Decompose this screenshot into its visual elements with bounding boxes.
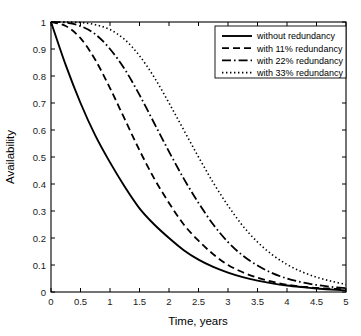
x-tick-label: 4.5 xyxy=(310,296,323,307)
x-tick-label: 1 xyxy=(107,296,112,307)
y-tick-label: 0.6 xyxy=(33,125,46,136)
x-tick-label: 5 xyxy=(343,296,348,307)
y-axis-title: Availability xyxy=(4,130,16,184)
x-tick-label: 3 xyxy=(225,296,230,307)
y-tick-label: 0.3 xyxy=(33,206,46,217)
y-tick-label: 0.9 xyxy=(33,44,46,55)
y-tick-label: 0.5 xyxy=(33,152,46,163)
y-tick-label: 1 xyxy=(41,17,46,28)
legend-label-1: with 11% redundancy xyxy=(256,44,343,54)
y-tick-label: 0.2 xyxy=(33,233,46,244)
x-tick-label: 2 xyxy=(166,296,171,307)
x-tick-label: 2.5 xyxy=(192,296,205,307)
x-tick-label: 0 xyxy=(48,296,53,307)
y-tick-label: 0.4 xyxy=(33,179,46,190)
y-tick-label: 0.1 xyxy=(33,260,46,271)
legend-label-0: without redundancy xyxy=(256,31,336,41)
x-axis-title: Time, years xyxy=(168,315,228,327)
legend: without redundancywith 11% redundancywit… xyxy=(215,26,346,78)
legend-label-2: with 22% redundancy xyxy=(256,56,344,66)
x-tick-label: 3.5 xyxy=(251,296,264,307)
availability-chart: 00.511.522.533.544.55 00.10.20.30.40.50.… xyxy=(0,0,361,336)
y-tick-label: 0.8 xyxy=(33,71,46,82)
x-tick-label: 1.5 xyxy=(133,296,146,307)
figure-container: 00.511.522.533.544.55 00.10.20.30.40.50.… xyxy=(0,0,361,336)
y-tick-label: 0 xyxy=(41,287,46,298)
x-tick-label: 0.5 xyxy=(74,296,87,307)
x-tick-label: 4 xyxy=(284,296,289,307)
y-tick-label: 0.7 xyxy=(33,98,46,109)
legend-label-3: with 33% redundancy xyxy=(256,68,344,78)
